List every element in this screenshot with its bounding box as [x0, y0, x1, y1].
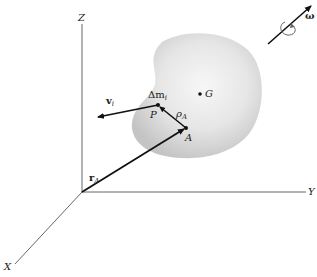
point-P — [156, 103, 160, 107]
point-A-label: A — [184, 132, 192, 143]
z-axis-label: Z — [77, 12, 86, 23]
diagram-svg: Z Y X rA ρA vi Δmi P A G ω — [0, 0, 317, 277]
rotation-direction-arc-icon — [281, 22, 296, 35]
velocity-vector-vi-label: vi — [105, 95, 114, 108]
x-axis-label: X — [3, 261, 12, 272]
point-P-label: P — [149, 109, 157, 120]
y-axis-label: Y — [308, 186, 316, 197]
center-of-mass-label: G — [205, 88, 213, 99]
point-A — [184, 126, 188, 130]
position-vector-rA-label: rA — [89, 172, 99, 185]
angular-velocity-label: ω — [305, 10, 315, 21]
x-axis — [15, 192, 82, 264]
center-of-mass-G — [198, 92, 202, 96]
rigid-body-kinematics-diagram: Z Y X rA ρA vi Δmi P A G ω — [0, 0, 317, 277]
